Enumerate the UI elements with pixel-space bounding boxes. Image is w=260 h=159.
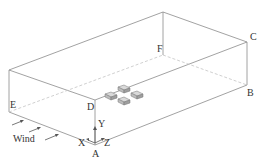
label-c: C (250, 31, 257, 42)
building-block-1 (118, 85, 130, 93)
label-e: E (10, 99, 16, 110)
x-axis-arrowhead (86, 138, 89, 141)
label-a: A (92, 148, 100, 159)
building-block-3 (131, 91, 143, 99)
hidden-edge-e-f (9, 55, 163, 112)
label-z-axis: Z (104, 137, 110, 148)
label-b: B (247, 87, 254, 98)
label-x-axis: X (78, 137, 86, 148)
label-f: F (157, 43, 163, 54)
label-d: D (87, 101, 94, 112)
domain-diagram: C B F E D A Y X Z Wind (0, 0, 260, 159)
box-visible-edges (9, 12, 247, 145)
y-axis-arrowhead (93, 126, 97, 130)
wind-arrow-3 (45, 135, 57, 140)
edge-a-b (95, 85, 247, 145)
wind-arrow-1 (12, 121, 22, 125)
building-blocks (105, 85, 143, 105)
building-block-2 (105, 92, 117, 100)
hidden-edge-f-b (163, 55, 247, 85)
label-y-axis: Y (98, 118, 105, 129)
wind-arrow-2 (29, 128, 39, 132)
building-block-4 (118, 97, 130, 105)
wind-label: Wind (13, 133, 35, 144)
